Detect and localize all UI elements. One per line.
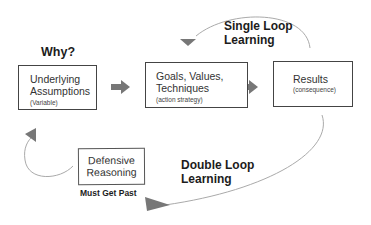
node-title-line2: Assumptions <box>30 85 90 98</box>
node-defensive-reasoning: Defensive Reasoning <box>78 148 145 185</box>
node-underlying-assumptions: Underlying Assumptions (Variable) <box>18 65 97 110</box>
node-title-line2: Reasoning <box>79 166 144 179</box>
single-loop-label: Single Loop Learning <box>224 19 293 47</box>
why-heading: Why? <box>41 45 75 59</box>
node-title-line1: Results <box>293 73 328 86</box>
node-title-line2: Techniques <box>156 82 209 95</box>
node-subtitle: (action strategy) <box>156 96 203 104</box>
single-loop-line1: Single Loop <box>224 19 293 33</box>
double-loop-line2: Learning <box>181 172 254 186</box>
node-results: Results (consequence) <box>273 61 353 107</box>
node-goals-values-techniques: Goals, Values, Techniques (action strate… <box>145 62 248 108</box>
double-loop-label: Double Loop Learning <box>181 158 254 186</box>
arrow-right-icon <box>111 80 130 94</box>
node-subtitle: (consequence) <box>293 86 336 94</box>
connector-layer <box>0 0 371 225</box>
double-loop-arrowhead-icon <box>145 197 170 211</box>
single-loop-arrowhead-icon <box>180 39 196 46</box>
node-subtitle: (Variable) <box>30 99 58 107</box>
double-loop-line1: Double Loop <box>181 158 254 172</box>
must-get-past-label: Must Get Past <box>80 188 137 198</box>
defensive-loop-arc <box>25 136 73 177</box>
defensive-loop-arrowhead-icon <box>25 128 36 142</box>
single-loop-line2: Learning <box>224 33 293 47</box>
